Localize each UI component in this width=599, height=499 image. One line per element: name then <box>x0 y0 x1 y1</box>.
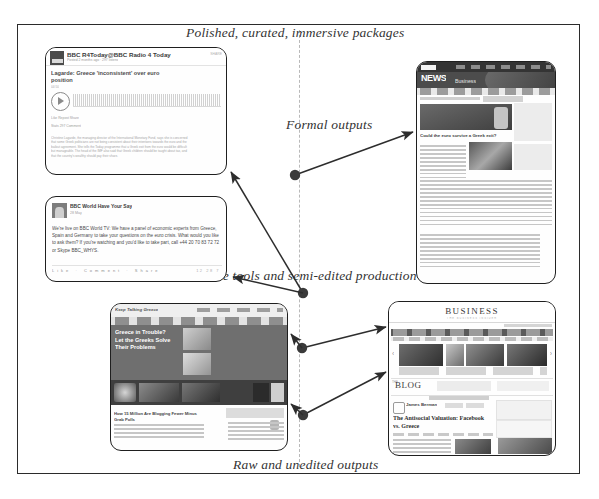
soundcloud-avatar <box>50 51 64 65</box>
author-name[interactable]: James Berman <box>406 402 437 407</box>
blog-wordmark: BLOG <box>395 380 422 390</box>
body-text-lines <box>420 145 466 181</box>
blog-post-headline[interactable]: The Antisocial Valuation: Facebook vs. G… <box>393 414 491 430</box>
strip-image-3 <box>182 383 220 402</box>
body-text-lines-3 <box>420 234 540 270</box>
blog-body-lines <box>393 439 451 454</box>
sidebar-widget <box>226 408 284 418</box>
card-soundcloud-r4today[interactable]: BBC R4Today@BBC Radio 4 Today Posted 2 m… <box>45 47 227 175</box>
market-ticker <box>483 96 523 102</box>
body-text-lines-2 <box>420 180 552 228</box>
business-wordmark: BUSINESS <box>389 306 555 316</box>
soundcloud-stats: Stats 297 Comment <box>51 124 81 128</box>
caption-polished-curated: Polished, curated, immersive packages <box>186 25 404 41</box>
featured-video[interactable] <box>420 104 512 130</box>
author-avatar <box>393 402 405 414</box>
card-keep-talking-greece[interactable]: Keep Talking Greece Greece in Trouble? L… <box>110 303 288 451</box>
search-input[interactable] <box>429 396 489 400</box>
blog-article-title[interactable]: How 15 Million Are Blogging Fewer Minus … <box>114 411 206 423</box>
hero-title[interactable]: Greece in Trouble? Let the Greeks Solve … <box>115 329 175 352</box>
soundcloud-description: Christine Lagarde, the managing director… <box>51 136 191 158</box>
soundcloud-account-name: BBC R4Today@BBC Radio 4 Today <box>67 51 171 58</box>
right-sidebar-widget <box>496 420 552 438</box>
strip-image-1 <box>114 383 136 402</box>
soundcloud-actions[interactable]: Like Repost Share <box>51 116 79 120</box>
carousel[interactable] <box>399 344 547 366</box>
right-sidebar-ad[interactable] <box>498 438 552 454</box>
sidebar-lines <box>228 422 284 442</box>
blog-body-lines <box>114 424 204 440</box>
caption-raw-unedited: Raw and unedited outputs <box>233 457 378 473</box>
business-main-nav[interactable] <box>391 329 553 336</box>
strip-image-2 <box>139 383 179 402</box>
carousel-next-icon[interactable]: › <box>550 350 552 357</box>
follow-button[interactable] <box>445 403 463 408</box>
carousel-item-4[interactable] <box>507 344 547 366</box>
blog-category-nav[interactable] <box>111 317 287 325</box>
carousel-item-1[interactable] <box>399 344 443 366</box>
figure-diagram: Polished, curated, immersive packages Fo… <box>0 0 599 499</box>
blog-site-title[interactable]: Keep Talking Greece <box>115 307 158 312</box>
soundcloud-duration: 04:50 <box>51 85 59 89</box>
carousel-item-2[interactable] <box>446 344 464 366</box>
card-business-blog[interactable]: BUSINESS THE BUSINESS INSIDER ‹ › THE BL… <box>388 301 556 456</box>
blog-top-nav[interactable] <box>197 308 283 312</box>
carousel-captions <box>399 367 547 375</box>
blog-header-text <box>437 381 491 391</box>
right-sidebar-promo <box>496 400 552 420</box>
share-button[interactable] <box>466 403 484 408</box>
facebook-actions[interactable]: Like · Comment · Share <box>52 268 160 273</box>
sidebar-features <box>514 144 552 170</box>
breadcrumb <box>420 97 480 100</box>
caption-formal-outputs: Formal outputs <box>286 117 372 133</box>
facebook-page-avatar <box>52 203 67 218</box>
hero-thumb-2[interactable] <box>183 353 211 375</box>
blog-tags[interactable] <box>393 433 493 436</box>
bbc-logo <box>421 65 436 70</box>
blog-inline-image <box>455 439 491 454</box>
vertical-divider <box>299 30 300 467</box>
sidebar-top-stories <box>514 103 552 141</box>
card-facebook-whys[interactable]: BBC World Have Your Say 28 May We're liv… <box>45 196 227 282</box>
carousel-prev-icon[interactable]: ‹ <box>392 350 394 357</box>
soundcloud-share-link[interactable]: SHARE <box>210 52 222 56</box>
business-tagline: THE BUSINESS INSIDER <box>389 317 555 320</box>
facebook-page-name[interactable]: BBC World Have Your Say <box>70 203 132 209</box>
waveform-baseline <box>73 106 221 107</box>
soundcloud-track-title: Lagarde: Greece 'inconsistent' over euro… <box>51 70 171 84</box>
business-sub-nav[interactable] <box>391 337 553 341</box>
article-photo <box>469 142 512 170</box>
bbc-nav-items[interactable] <box>456 65 551 69</box>
bbc-headline[interactable]: Could the euro survive a Greek exit? <box>420 133 512 138</box>
carousel-item-3[interactable] <box>466 344 504 366</box>
hero-thumb-1[interactable] <box>183 328 211 350</box>
facebook-post-date: 28 May <box>70 211 82 215</box>
soundcloud-posted-meta: Posted 2 months ago · 297 listens <box>67 58 118 62</box>
bbc-sub-nav[interactable] <box>417 88 555 95</box>
bbc-news-wordmark: NEWS <box>421 73 446 83</box>
facebook-reaction-counts: 12 28 7 <box>196 268 220 273</box>
bbc-section-business[interactable]: Business <box>455 78 476 84</box>
card-bbc-news-business[interactable]: NEWS Business Could the euro survive a G… <box>416 61 556 284</box>
utility-bar[interactable] <box>504 324 552 327</box>
blog-header-links[interactable] <box>497 381 549 391</box>
strip-image-4 <box>253 383 269 402</box>
waveform[interactable] <box>73 94 221 106</box>
caption-live-tools: Live tools and semi-edited production <box>205 268 417 284</box>
facebook-post-text: We're live on BBC World TV: We have a pa… <box>52 225 220 254</box>
divider <box>52 265 222 266</box>
strip-image-5 <box>271 383 284 402</box>
play-button-icon[interactable] <box>51 92 70 111</box>
